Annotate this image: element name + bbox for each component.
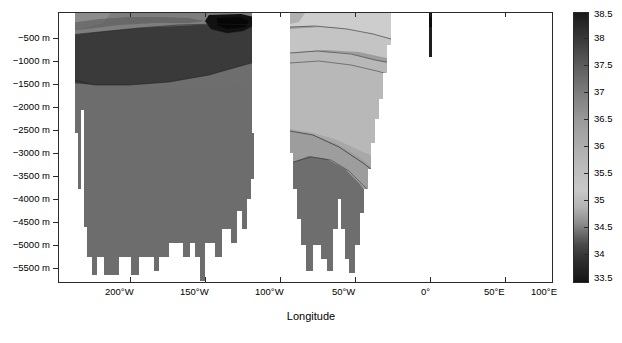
y-tick-label: −3000 m [0,147,50,158]
colorbar-tick-label: 35.5 [594,167,613,178]
x-tick-mark [505,277,506,283]
colorbar-gradient [574,13,588,282]
x-tick-label: 0° [421,286,430,297]
colorbar-tick [584,65,588,66]
y-tick-mark [53,107,59,108]
x-tick-mark-top [280,12,281,17]
y-tick-label: −4000 m [0,193,50,204]
colorbar-tick-label: 38.5 [594,8,613,19]
y-tick-mark [53,268,59,269]
x-tick-mark [552,277,553,283]
x-tick-mark-top [205,12,206,17]
colorbar [573,12,589,283]
y-tick-label: −500 m [0,32,50,43]
y-tick-label: −5500 m [0,262,50,273]
contour-plot-area [58,12,553,283]
colorbar-tick-label: 36.5 [594,113,613,124]
x-tick-mark [355,277,356,283]
y-tick-mark [53,130,59,131]
colorbar-tick-label: 36 [594,140,605,151]
colorbar-tick [584,200,588,201]
colorbar-tick-label: 33.5 [594,272,613,283]
y-tick-label: −3500 m [0,170,50,181]
y-tick-label: −2000 m [0,101,50,112]
x-tick-mark [130,277,131,283]
y-tick-mark [53,84,59,85]
x-tick-mark-top [505,12,506,17]
x-tick-mark-top [430,12,431,17]
x-tick-label: 100°E [531,286,557,297]
y-tick-label: −4500 m [0,216,50,227]
colorbar-tick [584,119,588,120]
x-tick-mark [205,277,206,283]
colorbar-tick-label: 34 [594,248,605,259]
x-tick-label: 200°W [105,286,134,297]
colorbar-tick-label: 34.5 [594,221,613,232]
y-tick-label: −1000 m [0,55,50,66]
colorbar-tick-label: 35 [594,194,605,205]
colorbar-tick [584,173,588,174]
colorbar-tick-label: 37 [594,86,605,97]
y-tick-mark [53,38,59,39]
colorbar-tick-label: 38 [594,32,605,43]
x-tick-label: 50°W [332,286,355,297]
y-tick-mark [53,245,59,246]
colorbar-tick-label: 37.5 [594,59,613,70]
figure-canvas: 200°W 150°W 100°W 50°W 0° 50°E 100°E Lon… [0,0,622,343]
y-tick-label: −2500 m [0,124,50,135]
y-tick-label: −5000 m [0,239,50,250]
x-tick-mark-top [355,12,356,17]
y-tick-mark [53,176,59,177]
colorbar-tick [584,146,588,147]
x-tick-mark-top [130,12,131,17]
y-tick-mark [53,153,59,154]
y-tick-mark [53,199,59,200]
y-tick-mark [53,61,59,62]
x-tick-label: 100°W [255,286,284,297]
colorbar-tick [584,254,588,255]
x-tick-mark [280,277,281,283]
x-tick-label: 50°E [484,286,505,297]
y-tick-label: −1500 m [0,78,50,89]
x-tick-mark [430,277,431,283]
colorbar-tick [584,38,588,39]
colorbar-tick [584,227,588,228]
x-axis-title: Longitude [0,310,622,322]
y-tick-mark [53,222,59,223]
colorbar-tick [584,92,588,93]
salinity-contour-field [59,13,552,282]
x-tick-label: 150°W [180,286,209,297]
